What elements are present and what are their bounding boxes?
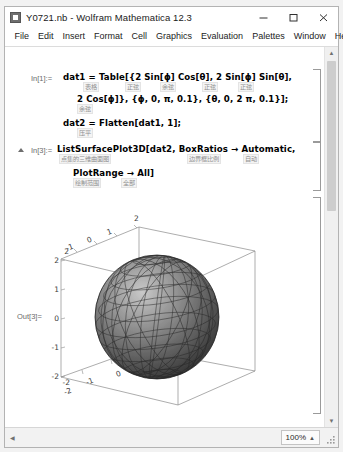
annotation-all: 全部 — [121, 178, 137, 188]
minimize-button[interactable] — [248, 7, 278, 28]
annotation-automatic: 自动 — [243, 154, 259, 164]
scroll-left-icon[interactable]: ◀ — [5, 428, 19, 447]
menu-item-palettes[interactable]: Palettes — [248, 29, 290, 44]
window-controls — [248, 7, 338, 28]
status-bar: ◀ 100% ▲ — [5, 427, 338, 447]
menu-item-graphics[interactable]: Graphics — [152, 29, 197, 44]
z-axis-tick-labels: 2 1 0 -1 -2 — [52, 256, 60, 381]
annotation-cos-1: 余弦 — [160, 82, 176, 92]
x-tick-label-0: -2 — [63, 386, 73, 397]
annotation-table: 表格 — [83, 82, 99, 92]
scroll-down-icon[interactable]: ▼ — [325, 415, 338, 427]
vertical-scrollbar[interactable]: ▲ ▼ — [324, 47, 338, 427]
annotation-cos-2: 余弦 — [77, 104, 93, 114]
z-tick-label-3: -1 — [52, 343, 60, 352]
annotation-sin-3: 正弦 — [238, 82, 254, 92]
menu-bar: File Edit Insert Format Cell Graphics Ev… — [5, 28, 338, 46]
close-button[interactable] — [308, 7, 338, 28]
menu-item-insert[interactable]: Insert — [58, 29, 90, 44]
code-line-4: ListSurfacePlot3D[dat2, BoxRatios → Auto… — [57, 144, 295, 154]
annotation-sin-2: 正弦 — [202, 82, 218, 92]
cell-bracket-3[interactable] — [313, 197, 321, 414]
menu-item-file[interactable]: File — [10, 29, 34, 44]
y-tick-label-1: 0 — [85, 235, 93, 245]
screenshot-root: Y0721.nb - Wolfram Mathematica 12.3 File… — [0, 0, 343, 452]
zoom-arrow-icon[interactable]: ▲ — [309, 435, 315, 441]
y-tick-label-2: 1 — [105, 227, 113, 237]
corner-label-top: 2 — [64, 247, 69, 256]
window-title: Y0721.nb - Wolfram Mathematica 12.3 — [26, 12, 192, 23]
code-line-1: dat1 = Table[{2 Sin[ϕ] Cos[θ], 2 Sin[ϕ] … — [63, 72, 292, 82]
annotation-sin-1: 正弦 — [125, 82, 141, 92]
cell-bracket-1[interactable] — [313, 69, 321, 143]
z-axis-ticks — [61, 260, 65, 377]
scrollbar-thumb[interactable] — [327, 61, 336, 211]
mathematica-window: Y0721.nb - Wolfram Mathematica 12.3 File… — [4, 6, 339, 448]
scroll-up-icon[interactable]: ▲ — [325, 47, 338, 59]
collapse-triangle-icon[interactable] — [18, 148, 24, 152]
x-tick-label-2: 0 — [115, 369, 123, 379]
code-line-3: dat2 = Flatten[dat1, 1]; — [63, 118, 181, 128]
z-tick-label-2: 0 — [54, 314, 59, 323]
annotation-boxratios: 边界框比例 — [187, 154, 221, 164]
menu-item-edit[interactable]: Edit — [34, 29, 59, 44]
x-tick-label-1: -1 — [85, 376, 95, 387]
zoom-level-label: 100% — [286, 433, 306, 442]
menu-item-cell[interactable]: Cell — [127, 29, 152, 44]
plot-svg: -1 0 1 2 — [41, 199, 281, 414]
annotation-flatten: 压平 — [77, 128, 93, 138]
menu-item-evaluation[interactable]: Evaluation — [197, 29, 248, 44]
zoom-control[interactable]: 100% ▲ — [281, 430, 320, 445]
notebook-area: In[1]:= dat1 = Table[{2 Sin[ϕ] Cos[θ], 2… — [5, 46, 338, 427]
in-label-1: In[1]:= — [31, 74, 52, 83]
annotation-plotrange: 绘制范围 — [73, 178, 101, 188]
z-tick-label-4: -2 — [52, 372, 60, 381]
maximize-button[interactable] — [278, 7, 308, 28]
menu-item-format[interactable]: Format — [90, 29, 128, 44]
in-label-3: In[3]:= — [31, 146, 52, 155]
code-line-2: 2 Cos[ϕ]}, {ϕ, 0, π, 0.1}, {θ, 0, 2 π, 0… — [77, 94, 288, 104]
sphere-surface — [82, 238, 232, 396]
out-label-3: Out[3]= — [17, 312, 42, 321]
y-tick-label-3: 2 — [134, 214, 139, 223]
cell-bracket-2[interactable] — [313, 141, 321, 191]
annotation-listsurfaceplot3d: 点集的三维曲面图 — [59, 154, 111, 164]
surface-plot-3d[interactable]: -1 0 1 2 — [41, 199, 281, 414]
notebook-canvas[interactable]: In[1]:= dat1 = Table[{2 Sin[ϕ] Cos[θ], 2… — [5, 47, 324, 427]
code-line-5: PlotRange → All] — [73, 168, 154, 178]
notebook-app-icon — [10, 12, 21, 23]
y-axis-tick-labels: -1 0 1 2 — [64, 214, 139, 253]
menu-item-window[interactable]: Window — [289, 29, 330, 44]
menu-item-help[interactable]: Help — [330, 29, 343, 44]
resize-grip-icon[interactable] — [324, 434, 336, 446]
title-bar: Y0721.nb - Wolfram Mathematica 12.3 — [5, 7, 338, 28]
z-tick-label-1: 1 — [54, 285, 59, 294]
z-tick-label-0: 2 — [54, 256, 59, 265]
